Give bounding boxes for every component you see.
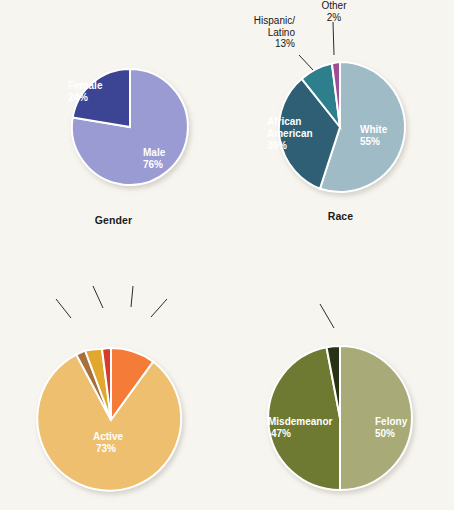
leader-line-hispanic-latino bbox=[299, 55, 313, 70]
leader-line-supervised bbox=[131, 286, 133, 307]
leader-line-absconder bbox=[93, 286, 103, 308]
slice-value-misdemeanor: 47% bbox=[271, 428, 291, 439]
pie-chart-grid: Female 24% Male 76% Gender bbox=[0, 0, 454, 510]
offense-pie-svg: Felony 50% Misdemeanor 47% bbox=[227, 255, 454, 510]
chart-panel-gender: Female 24% Male 76% Gender bbox=[0, 0, 227, 255]
slice-label-misdemeanor: Misdemeanor bbox=[268, 416, 333, 427]
slice-label-felony: Felony bbox=[375, 416, 408, 427]
slice-value-felony: 50% bbox=[375, 428, 395, 439]
slice-label-african-american-2: American bbox=[267, 128, 313, 139]
slice-label-male: Male bbox=[143, 147, 166, 158]
slice-value-male: 76% bbox=[143, 159, 163, 170]
slice-value-white: 55% bbox=[360, 136, 380, 147]
leader-line-other-infractions bbox=[320, 304, 334, 328]
slice-value-female: 24% bbox=[68, 92, 88, 103]
status-pie-body bbox=[37, 348, 181, 491]
chart-panel-race: White 55% African American 30% Hispanic/… bbox=[227, 0, 454, 255]
chart-panel-status: Active 73% Inactive 6% Absconder 9% Supe… bbox=[0, 255, 227, 510]
slice-value-active: 73% bbox=[96, 443, 116, 454]
slice-label-african-american-1: African bbox=[267, 116, 301, 127]
chart-panel-offense: Felony 50% Misdemeanor 47% Other infract… bbox=[227, 255, 454, 510]
leader-line-other-race bbox=[333, 22, 334, 55]
outside-label-other-race: Other 2% bbox=[305, 0, 363, 23]
leader-line-inactive bbox=[56, 299, 71, 318]
slice-label-female: Female bbox=[68, 80, 103, 91]
chart-caption-race: Race bbox=[227, 210, 454, 222]
slice-label-white: White bbox=[360, 124, 388, 135]
chart-caption-gender: Gender bbox=[0, 214, 227, 226]
outside-label-hispanic-latino: Hispanic/ Latino 13% bbox=[227, 15, 295, 50]
leader-line-other-status bbox=[151, 299, 167, 317]
status-pie-svg: Active 73% bbox=[0, 255, 227, 510]
slice-label-active: Active bbox=[93, 431, 123, 442]
slice-value-african-american: 30% bbox=[267, 140, 287, 151]
